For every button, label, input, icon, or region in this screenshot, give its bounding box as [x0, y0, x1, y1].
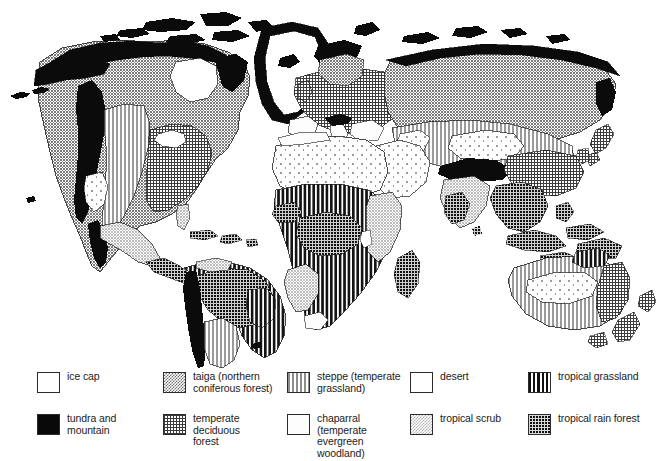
legend-label-chaparral: chaparral (temperate evergreen woodland): [317, 412, 411, 459]
legend-swatch-ice-cap-icon: [37, 372, 60, 393]
legend-swatch-steppe-icon: [287, 372, 310, 393]
map-canvas: [0, 0, 657, 368]
legend-swatch-tropical-scrub-icon: [410, 414, 433, 435]
legend-label-ice-cap: ice cap: [67, 370, 100, 383]
legend-item-temperate-deciduous-forest[interactable]: temperate deciduous forest: [163, 412, 283, 454]
legend-column-1: ice cap tundra and mountain: [37, 370, 155, 454]
legend-label-desert: desert: [440, 370, 469, 383]
legend-label-tropical-grassland: tropical grassland: [558, 370, 639, 383]
legend-item-tropical-scrub[interactable]: tropical scrub: [410, 412, 522, 454]
legend-column-5: tropical grassland tropical rain forest: [528, 370, 656, 454]
legend-swatch-tropical-grassland-icon: [528, 372, 551, 393]
legend-item-steppe[interactable]: steppe (temperate grassland): [287, 370, 411, 412]
legend-item-tundra-and-mountain[interactable]: tundra and mountain: [37, 412, 155, 454]
legend-item-tropical-grassland[interactable]: tropical grassland: [528, 370, 656, 412]
legend-item-chaparral[interactable]: chaparral (temperate evergreen woodland): [287, 412, 411, 454]
legend-item-ice-cap[interactable]: ice cap: [37, 370, 155, 412]
legend-item-desert[interactable]: desert: [410, 370, 522, 412]
legend-label-tropical-scrub: tropical scrub: [440, 412, 501, 425]
legend-swatch-tropical-rain-forest-icon: [528, 414, 551, 435]
legend-column-3: steppe (temperate grassland) chaparral (…: [287, 370, 411, 454]
legend-label-temperate-deciduous-forest: temperate deciduous forest: [193, 412, 283, 448]
legend-swatch-tundra-icon: [37, 414, 60, 435]
legend-label-steppe: steppe (temperate grassland): [317, 370, 401, 394]
legend-label-tropical-rain-forest: tropical rain forest: [558, 412, 639, 425]
legend-swatch-deciduous-icon: [163, 414, 186, 435]
legend-column-2: taiga (northern coniferous forest) tempe…: [163, 370, 283, 454]
map-legend: ice cap tundra and mountain taiga (north…: [0, 370, 657, 461]
legend-item-tropical-rain-forest[interactable]: tropical rain forest: [528, 412, 656, 454]
legend-item-taiga[interactable]: taiga (northern coniferous forest): [163, 370, 283, 412]
legend-label-taiga: taiga (northern coniferous forest): [193, 370, 272, 394]
legend-label-tundra-and-mountain: tundra and mountain: [67, 412, 116, 436]
world-biome-map-figure: ice cap tundra and mountain taiga (north…: [0, 0, 657, 461]
legend-swatch-chaparral-icon: [287, 414, 310, 435]
legend-swatch-taiga-icon: [163, 372, 186, 393]
legend-swatch-desert-icon: [410, 372, 433, 393]
legend-column-4: desert tropical scrub: [410, 370, 522, 454]
